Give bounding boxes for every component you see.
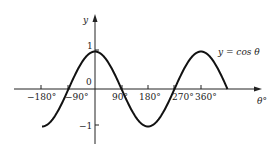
curve-label: y = cos θ: [217, 47, 260, 57]
x-axis-arrow-icon: [254, 87, 262, 92]
cosine-chart: y θ° y = cos θ 1 0 −1 −180° −90° 90° 180…: [0, 0, 275, 153]
y-tick-label-neg1: −1: [79, 121, 92, 131]
x-axis-label: θ°: [257, 96, 267, 106]
y-ticks: [95, 50, 99, 125]
chart-canvas: y θ° y = cos θ 1 0 −1 −180° −90° 90° 180…: [0, 0, 275, 153]
x-tick-label-180: 180°: [139, 92, 161, 102]
x-tick-label-270: 270°: [172, 92, 194, 102]
y-tick-label-1: 1: [87, 41, 93, 51]
x-tick-label-m90: −90°: [65, 92, 89, 102]
y-axis-arrow-icon: [93, 14, 98, 22]
x-tick-label-m180: −180°: [27, 92, 56, 102]
origin-label: 0: [86, 77, 92, 87]
x-tick-label-90: 90°: [112, 92, 128, 102]
y-axis-label: y: [82, 15, 89, 25]
x-tick-label-360: 360°: [195, 92, 217, 102]
